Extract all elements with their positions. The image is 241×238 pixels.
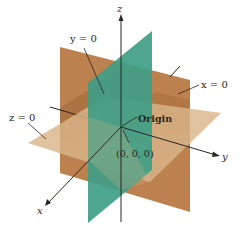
origin-coords-label: (0, 0, 0) <box>116 148 154 159</box>
coordinate-planes-diagram: z y x y = 0 x = 0 z = 0 Origin (0, 0, 0) <box>0 0 241 238</box>
y-axis-label: y <box>221 151 228 162</box>
z-axis-arrowhead <box>119 14 124 21</box>
origin-label: Origin <box>138 113 172 124</box>
x-axis-label: x <box>37 205 43 216</box>
y-axis-back <box>170 66 180 77</box>
z-axis-label: z <box>116 3 123 14</box>
z-plane-leader <box>28 123 46 139</box>
z-plane-label: z = 0 <box>9 112 35 123</box>
y-plane-label: y = 0 <box>69 33 97 44</box>
x-axis-arrowhead <box>45 199 51 206</box>
y-axis-arrowhead <box>212 152 220 158</box>
x-plane-label: x = 0 <box>201 79 228 90</box>
